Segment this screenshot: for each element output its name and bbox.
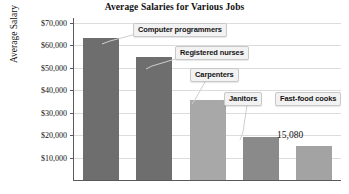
callout-computer-programmers: Computer programmers: [133, 23, 227, 37]
bar: [136, 57, 172, 180]
axis-tick: [70, 23, 74, 24]
y-axis-tick-label: $50,000: [1, 63, 67, 72]
y-axis-tick-label: $70,000: [1, 18, 67, 27]
axis-tick: [70, 90, 74, 91]
callout-janitors: Janitors: [224, 92, 262, 106]
axis-tick: [70, 135, 74, 136]
chart-container: Average Salaries for Various Jobs Averag…: [0, 0, 349, 194]
callout-carpenters: Carpenters: [190, 68, 239, 82]
y-axis-tick-label: $40,000: [1, 86, 67, 95]
y-axis-tick-label: $10,000: [1, 153, 67, 162]
axis-tick: [70, 113, 74, 114]
y-axis-tick-label: $30,000: [1, 108, 67, 117]
chart-title: Average Salaries for Various Jobs: [0, 2, 349, 12]
axis-tick: [70, 68, 74, 69]
y-axis-tick-label: $20,000: [1, 131, 67, 140]
bar: [243, 137, 279, 180]
callout-fast-food-cooks: Fast-food cooks: [275, 92, 341, 106]
y-axis-tick-label: $60,000: [1, 41, 67, 50]
bar: [296, 146, 332, 180]
callout-registered-nurses: Registered nurses: [175, 46, 249, 60]
data-label-fast-food-cooks: 15,080: [277, 130, 303, 140]
bar: [83, 38, 119, 180]
axis-tick: [70, 158, 74, 159]
bar: [190, 100, 226, 180]
axis-tick: [70, 45, 74, 46]
